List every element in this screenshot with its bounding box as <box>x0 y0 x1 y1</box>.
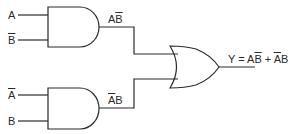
or-gate <box>170 46 219 88</box>
label-and2-output: AB <box>108 95 123 106</box>
label-input-a: A <box>8 10 15 21</box>
and-gate-1 <box>48 7 99 47</box>
label-input-b: B <box>8 116 15 127</box>
and-gate-2 <box>48 88 99 129</box>
label-output-equation: Y = AB + AB <box>228 54 288 65</box>
logic-circuit <box>0 0 293 134</box>
wire-and1-output <box>99 27 178 54</box>
label-input-b-bar: B <box>8 35 15 46</box>
label-and1-output: AB <box>108 14 123 25</box>
label-input-a-bar: A <box>8 90 15 101</box>
